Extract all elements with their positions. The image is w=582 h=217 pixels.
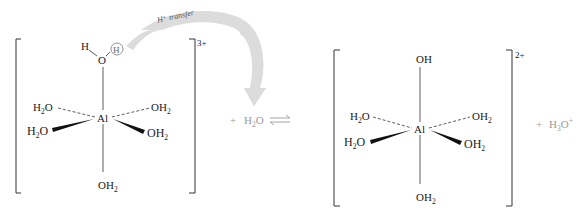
- reactant-al: Al: [97, 112, 108, 124]
- hydronium-product: H3O+: [549, 116, 573, 133]
- reactant-top-o: O: [98, 54, 106, 66]
- water-reactant: H2O: [244, 114, 264, 129]
- product-ligand-lower-left: H2O: [344, 135, 365, 151]
- reactant-charge: 3+: [197, 38, 207, 48]
- product-ligand-bottom: OH2: [416, 191, 436, 206]
- product-top-oh: OH: [416, 53, 432, 65]
- reactant-top-h: H: [81, 40, 89, 52]
- product-charge: 2+: [515, 50, 525, 60]
- equilibrium-arrow-icon: [270, 115, 290, 125]
- plus-1: +: [230, 114, 236, 126]
- structures-layer: 3+ H O H Al H2O OH2 H2O OH2 OH2 + H2O 2+…: [0, 0, 582, 217]
- reactant-circled-h: H: [113, 45, 120, 55]
- product-al: Al: [414, 123, 425, 135]
- product-ligand-upper-right: OH2: [472, 110, 492, 125]
- product-ligand-upper-left: H2O: [350, 110, 370, 125]
- plus-2: +: [536, 118, 542, 130]
- product-ligand-lower-right: OH2: [464, 137, 485, 153]
